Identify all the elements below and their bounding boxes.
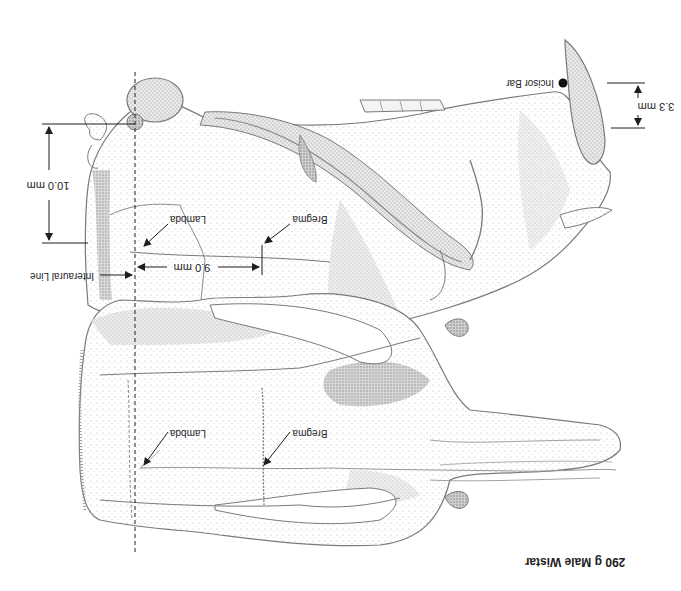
lambda-lateral-label: Lambda [170, 214, 206, 224]
incisor-bar-label: Incisor Bar [506, 78, 554, 88]
lambda-dorsal-label: Lambda [170, 428, 206, 438]
incisor-bar-dimension-label: 3.3 mm [638, 101, 675, 112]
bregma-dorsal-label: Bregma [292, 428, 327, 438]
bregma-lateral-label: Bregma [292, 214, 327, 224]
skull-drawing [0, 0, 681, 591]
figure-title: 290 g Male Wistar [525, 556, 626, 568]
bregma-interaural-distance-label: 9.0 mm [174, 262, 211, 273]
rat-skull-stereotaxic-diagram: 10.0 mm 9.0 mm Interaural Line Lambda Br… [0, 0, 681, 591]
incisor-bar-marker [559, 79, 568, 88]
interaural-line-label: Interaural Line [30, 271, 94, 281]
dorsal-skull [79, 294, 620, 546]
height-dimension-label: 10.0 mm [27, 180, 70, 191]
